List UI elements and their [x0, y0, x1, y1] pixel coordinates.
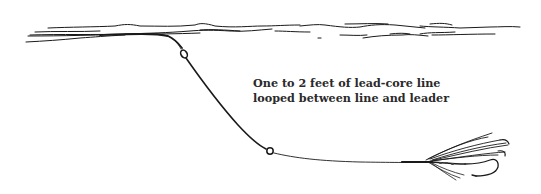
caption-line-2: looped between line and leader	[253, 91, 449, 106]
wet-fly	[402, 133, 509, 180]
figure-caption: One to 2 feet of lead-core line looped b…	[253, 76, 449, 106]
caption-line-1: One to 2 feet of lead-core line	[253, 76, 449, 91]
loop-knot-line-to-leadcore	[179, 49, 188, 59]
loop-knot-leadcore-to-leader	[267, 148, 273, 154]
water-surface-strokes	[26, 23, 520, 42]
